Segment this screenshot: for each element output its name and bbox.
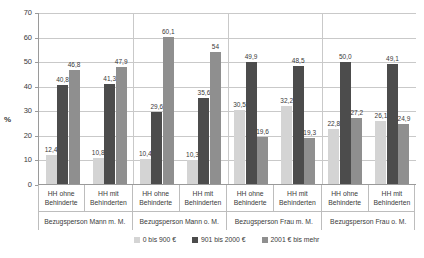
y-axis-tick-label: 60 [12, 34, 32, 42]
chart-legend: 0 bis 900 €901 bis 2000 €2001 € bis mehr [38, 236, 415, 243]
category-label: HH mitBehinderten [180, 185, 227, 211]
y-axis-tick-label: 10 [12, 156, 32, 164]
category-label: HH ohneBehinderte [38, 185, 85, 211]
legend-label: 901 bis 2000 € [201, 236, 246, 243]
bar-value-label: 60,1 [158, 29, 178, 36]
bar-chart: % 706050403020100 12,440,846,810,841,347… [0, 0, 424, 258]
bar [351, 118, 362, 185]
bar [69, 70, 80, 185]
category-axis: HH ohneBehinderteHH mitBehindertenHH ohn… [38, 185, 415, 230]
category-label: HH ohneBehinderte [322, 185, 369, 211]
category-label-line: Behinderte [328, 198, 361, 207]
bar [293, 66, 304, 185]
plot-area: 12,440,846,810,841,347,910,429,660,110,3… [38, 13, 415, 185]
bar [304, 138, 315, 185]
legend-swatch-icon [134, 237, 140, 243]
category-label: HH ohneBehinderte [133, 185, 180, 211]
y-axis-tick-label: 0 [12, 181, 32, 189]
category-label-line: Behinderten [279, 198, 316, 207]
bar-group: 30,549,919,6 [228, 13, 275, 185]
bar-group: 32,248,519,3 [275, 13, 322, 185]
bar-group: 10,841,347,9 [86, 13, 133, 185]
bar-value-label: 24,9 [394, 116, 414, 123]
category-label-line: Behinderte [234, 198, 267, 207]
legend-label: 2001 € bis mehr [271, 236, 320, 243]
category-labels-row: HH ohneBehinderteHH mitBehindertenHH ohn… [38, 185, 415, 212]
bar [257, 137, 268, 185]
category-label-line: HH ohne [48, 189, 75, 198]
super-category-label: Bezugsperson Frau m. M. [227, 212, 322, 230]
legend-swatch-icon [192, 237, 198, 243]
bar-value-label: 47,9 [111, 59, 131, 66]
y-axis-tick-label: 40 [12, 83, 32, 91]
bar [210, 52, 221, 185]
bar-group: 12,440,846,8 [39, 13, 86, 185]
legend-label: 0 bis 900 € [143, 236, 176, 243]
bar [234, 110, 245, 185]
category-label-line: HH mit [287, 189, 308, 198]
bar-value-label: 54 [205, 44, 225, 51]
super-category-label: Bezugsperson Mann m. M. [38, 212, 133, 230]
bar [151, 112, 162, 185]
bar [328, 129, 339, 185]
bar [57, 85, 68, 185]
category-label-line: HH ohne [142, 189, 169, 198]
super-category-label: Bezugsperson Mann o. M. [133, 212, 228, 230]
y-axis-tick-label: 70 [12, 9, 32, 17]
bar-group: 10,335,654 [180, 13, 227, 185]
bar [140, 159, 151, 185]
bar-value-label: 27,2 [347, 110, 367, 117]
bar [187, 160, 198, 185]
legend-item[interactable]: 2001 € bis mehr [262, 236, 320, 243]
bar-group: 26,149,124,9 [369, 13, 416, 185]
category-label-line: Behinderten [185, 198, 222, 207]
bar [46, 155, 57, 185]
bar-group: 10,429,660,1 [133, 13, 180, 185]
bar [340, 62, 351, 185]
bar-value-label: 19,6 [253, 129, 273, 136]
super-category-label: Bezugsperson Frau o. M. [322, 212, 416, 230]
category-label: HH ohneBehinderte [227, 185, 274, 211]
bar [387, 64, 398, 185]
bar-value-label: 49,1 [382, 56, 402, 63]
category-label-line: Behinderten [374, 198, 411, 207]
super-category-labels-row: Bezugsperson Mann m. M.Bezugsperson Mann… [38, 212, 415, 230]
category-label: HH mitBehinderten [274, 185, 321, 211]
bar-value-label: 19,3 [300, 130, 320, 137]
bar [246, 62, 257, 185]
bar-value-label: 49,9 [241, 54, 261, 61]
category-label-line: Behinderte [139, 198, 172, 207]
category-label-line: HH mit [381, 189, 402, 198]
y-axis-tick-label: 50 [12, 58, 32, 66]
y-axis-tick-label: 30 [12, 107, 32, 115]
bar [198, 98, 209, 185]
category-label: HH mitBehinderten [85, 185, 132, 211]
bar [398, 124, 409, 185]
category-label-line: HH mit [98, 189, 119, 198]
legend-item[interactable]: 0 bis 900 € [134, 236, 176, 243]
bar-value-label: 48,5 [288, 58, 308, 65]
bar [104, 84, 115, 185]
bar [116, 67, 127, 185]
category-label: HH mitBehinderten [369, 185, 415, 211]
y-axis-title: % [4, 115, 11, 124]
legend-item[interactable]: 901 bis 2000 € [192, 236, 246, 243]
category-label-line: HH mit [192, 189, 213, 198]
bar [93, 158, 104, 185]
bar-value-label: 50,0 [335, 54, 355, 61]
bar [375, 121, 386, 185]
category-label-line: HH ohne [237, 189, 264, 198]
category-label-line: Behinderten [90, 198, 127, 207]
bar [281, 106, 292, 185]
y-axis-tick-label: 20 [12, 132, 32, 140]
category-label-line: HH ohne [331, 189, 358, 198]
bar-group: 22,850,027,2 [322, 13, 369, 185]
bar-value-label: 46,8 [64, 62, 84, 69]
legend-swatch-icon [262, 237, 268, 243]
bar [163, 37, 174, 185]
category-label-line: Behinderte [45, 198, 78, 207]
